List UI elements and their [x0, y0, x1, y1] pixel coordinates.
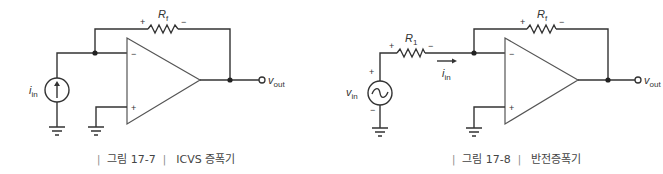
opamp-noninverting-sign: + — [131, 103, 136, 113]
feedback-resistor-rf — [148, 25, 178, 33]
opamp-inverting-sign: − — [509, 49, 514, 59]
vout-label: vout — [644, 74, 661, 89]
sine-wave-icon — [372, 89, 388, 98]
iin-label: iin — [29, 84, 38, 99]
rf-label: Rf — [158, 8, 169, 23]
junction-dot — [605, 77, 610, 82]
vin-minus-sign: − — [370, 105, 375, 115]
r1-label: R1 — [405, 32, 418, 47]
opamp-triangle — [127, 38, 200, 124]
output-terminal-icon — [635, 77, 641, 83]
vout-label: vout — [268, 74, 285, 89]
rf-plus-sign: + — [140, 17, 145, 27]
figure-caption: | 그림 17-7 | ICVS 증폭기 — [97, 149, 235, 166]
junction-dot — [227, 77, 232, 82]
figure-caption: | 그림 17-8 | 반전증폭기 — [452, 149, 581, 166]
iin-label: iin — [442, 67, 451, 82]
rf-minus-sign: − — [559, 17, 564, 27]
rf-plus-sign: + — [520, 17, 525, 27]
r1-minus-sign: − — [428, 41, 433, 51]
figure-inverting-amplifier: R1 + − iin + − vin Rf + − − + — [346, 8, 661, 166]
noninverting-input-wire — [474, 107, 505, 128]
noninverting-input-wire — [96, 107, 127, 127]
vin-label: vin — [346, 86, 358, 101]
ground-icon — [372, 128, 388, 136]
opamp-inverting-sign: − — [131, 49, 136, 59]
output-terminal-icon — [259, 77, 265, 83]
rf-minus-sign: − — [181, 17, 186, 27]
feedback-resistor-rf — [527, 25, 556, 33]
circuit-diagrams: Rf + − iin − + vout | 그림 17-7 — [0, 0, 663, 174]
opamp-triangle — [505, 38, 578, 124]
rf-label: Rf — [537, 8, 548, 23]
ground-icon — [466, 128, 482, 136]
figure-icvs-amplifier: Rf + − iin − + vout | 그림 17-7 — [29, 8, 285, 166]
r1-plus-sign: + — [389, 41, 394, 51]
ground-icon — [88, 127, 104, 135]
junction-dot — [92, 50, 97, 55]
ground-icon — [49, 127, 65, 135]
input-resistor-r1 — [397, 49, 425, 57]
opamp-noninverting-sign: + — [509, 103, 514, 113]
junction-dot — [471, 50, 476, 55]
inverting-input-wire — [57, 53, 127, 78]
vin-plus-sign: + — [369, 67, 374, 77]
